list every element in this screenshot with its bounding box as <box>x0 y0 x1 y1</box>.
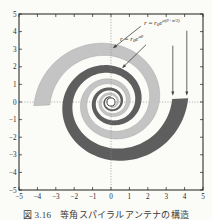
outer-edge-formula-part: a(θ+π/2) <box>162 18 180 23</box>
y-tick-label: 3 <box>13 46 17 54</box>
y-tick-label: −5 <box>9 187 17 195</box>
feed-point-circle <box>107 98 115 106</box>
x-tick-label: −1 <box>89 193 97 201</box>
y-tick-label: −1 <box>9 116 17 124</box>
x-tick-label: 3 <box>164 193 168 201</box>
outer-edge-formula: r = r0ea(θ+π/2) <box>144 18 180 28</box>
figure-caption: 図 3.16 等角スパイラルアンテナの構造 <box>0 210 212 220</box>
x-tick-label: 1 <box>128 193 132 201</box>
y-tick-label: 4 <box>13 28 17 36</box>
x-tick-label: −3 <box>52 193 60 201</box>
arrow-end-outer-radius-head <box>185 92 188 96</box>
x-tick-label: −4 <box>34 193 42 201</box>
y-tick-label: 2 <box>13 63 17 71</box>
outer-edge-formula-part: = <box>147 19 154 27</box>
x-tick-label: 0 <box>109 193 113 201</box>
arrow-end-inner-radius-head <box>171 92 174 96</box>
y-tick-label: 5 <box>13 11 17 19</box>
y-tick-label: 0 <box>13 99 17 107</box>
y-tick-label: −2 <box>9 134 17 142</box>
y-tick-label: 1 <box>13 81 17 89</box>
x-tick-label: 4 <box>183 193 187 201</box>
x-tick-label: −2 <box>70 193 78 201</box>
figure-equiangular-spiral-antenna: −5−4−3−2−1012345−5−4−3−2−1012345 r = r0e… <box>0 0 212 220</box>
grid-guides-over <box>107 14 115 190</box>
inner-edge-formula-part: = <box>123 35 130 43</box>
y-tick-label: −4 <box>9 169 17 177</box>
x-tick-label: 2 <box>146 193 150 201</box>
inner-edge-formula: r = r0eaθ <box>120 34 144 44</box>
inner-edge-formula-part: aθ <box>138 34 143 39</box>
x-tick-label: 5 <box>201 193 205 201</box>
y-tick-label: −3 <box>9 151 17 159</box>
spiral-chart: −5−4−3−2−1012345−5−4−3−2−1012345 r = r0e… <box>0 0 212 220</box>
